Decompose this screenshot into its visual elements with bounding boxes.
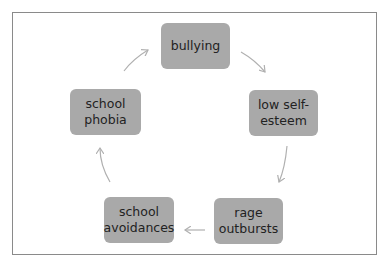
node-school-phobia: school phobia xyxy=(70,89,141,135)
node-rage-outbursts: rage outbursts xyxy=(214,198,283,244)
node-bullying: bullying xyxy=(161,23,230,69)
arrow-school-phobia-to-bullying xyxy=(124,50,148,71)
node-label: rage outbursts xyxy=(219,205,278,237)
node-school-avoidances: school avoidances xyxy=(104,197,174,243)
node-label: school phobia xyxy=(84,96,127,128)
node-label: bullying xyxy=(171,38,221,54)
node-label: low self- esteem xyxy=(258,97,309,129)
arrow-low-self-esteem-to-rage-outbursts xyxy=(279,146,287,182)
node-label: school avoidances xyxy=(104,204,175,236)
arrow-bullying-to-low-self-esteem xyxy=(241,52,265,72)
arrow-school-avoidances-to-school-phobia xyxy=(100,148,110,182)
node-low-self-esteem: low self- esteem xyxy=(249,90,318,136)
